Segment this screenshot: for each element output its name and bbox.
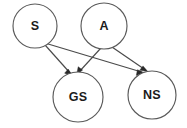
dag-diagram: S A GS NS [0,0,187,128]
node-gs-label: GS [69,90,87,104]
node-layer: S A GS NS [13,3,176,122]
node-ns-label: NS [143,88,161,102]
node-s[interactable]: S [13,4,57,48]
node-ns[interactable]: NS [128,71,176,119]
node-gs[interactable]: GS [53,72,103,122]
node-a-label: A [99,19,108,33]
edge-a-to-gs[interactable] [77,49,101,75]
diagram-canvas: S A GS NS [0,0,187,128]
edge-a-to-ns-line [111,46,146,70]
node-s-label: S [31,19,40,33]
edge-a-to-gs-line [79,49,101,73]
node-a[interactable]: A [81,3,127,49]
